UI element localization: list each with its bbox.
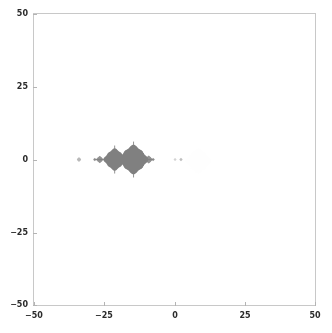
y-tick-mark-0 [33, 160, 37, 161]
plot-axes[interactable] [33, 13, 316, 306]
x-tick-mark--50 [34, 302, 35, 306]
figure-canvas: 50 25 0 −25 −50 −50 −25 0 25 50 [0, 0, 332, 333]
y-tick-mark-25 [33, 87, 37, 88]
y-tick-label-50: 50 [2, 10, 28, 18]
x-tick-mark-25 [245, 302, 246, 306]
y-tick-label-0: 0 [2, 156, 28, 164]
x-tick-mark-0 [175, 302, 176, 306]
x-tick-label--25: −25 [89, 312, 119, 320]
y-tick-label-25: 25 [2, 83, 28, 91]
y-tick-mark-50 [33, 14, 37, 15]
y-tick-label--50: −50 [2, 301, 28, 309]
x-tick-label-50: 50 [300, 312, 330, 320]
mandelbrot-scatter-plot [34, 14, 315, 305]
x-tick-mark--25 [104, 302, 105, 306]
x-tick-label-25: 25 [230, 312, 260, 320]
x-tick-label--50: −50 [19, 312, 49, 320]
y-tick-mark--25 [33, 233, 37, 234]
y-tick-label--25: −25 [2, 229, 28, 237]
x-tick-mark-50 [315, 302, 316, 306]
x-tick-label-0: 0 [160, 312, 190, 320]
